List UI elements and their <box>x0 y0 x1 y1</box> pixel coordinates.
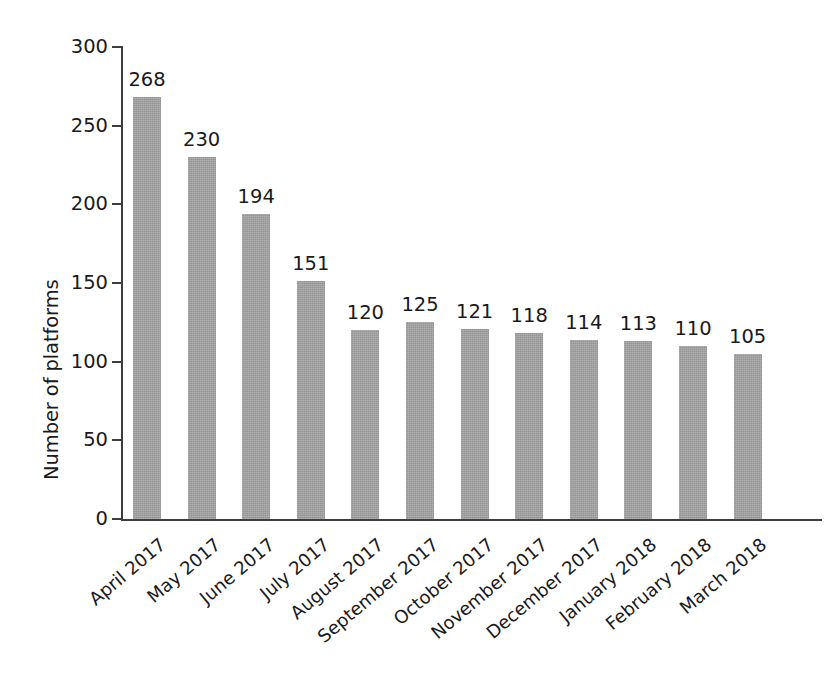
y-tick-mark <box>112 439 121 441</box>
y-tick-label-wrap: 0 <box>40 509 108 529</box>
y-tick-label: 150 <box>48 273 108 293</box>
bar-chart: Number of platforms 050100150200250300 2… <box>0 0 839 682</box>
y-tick-mark <box>112 518 121 520</box>
y-tick-label: 100 <box>48 352 108 372</box>
bar-value-label: 230 <box>162 130 242 150</box>
y-tick-label: 0 <box>48 509 108 529</box>
bar-value-label: 105 <box>708 327 788 347</box>
bar-value-label: 151 <box>271 254 351 274</box>
bar <box>461 329 489 519</box>
y-tick-mark <box>112 46 121 48</box>
y-tick-label-wrap: 100 <box>40 352 108 372</box>
bar-value-label: 194 <box>216 187 296 207</box>
bar <box>406 322 434 519</box>
y-tick-mark <box>112 125 121 127</box>
bar <box>242 214 270 519</box>
y-tick-mark <box>112 282 121 284</box>
y-tick-label: 300 <box>48 37 108 57</box>
bar <box>515 333 543 519</box>
bar <box>297 281 325 519</box>
y-tick-label-wrap: 300 <box>40 37 108 57</box>
bar <box>351 330 379 519</box>
y-tick-mark <box>112 361 121 363</box>
y-axis-line <box>121 46 123 521</box>
y-tick-label: 50 <box>48 430 108 450</box>
bar <box>679 346 707 519</box>
bar <box>188 157 216 519</box>
y-tick-label-wrap: 200 <box>40 194 108 214</box>
bar <box>133 97 161 519</box>
y-tick-label-wrap: 150 <box>40 273 108 293</box>
bar <box>734 354 762 519</box>
y-axis-title: Number of platforms <box>40 0 66 480</box>
y-tick-label-wrap: 250 <box>40 116 108 136</box>
bar-value-label: 268 <box>107 70 187 90</box>
y-tick-label: 250 <box>48 116 108 136</box>
bar <box>624 341 652 519</box>
x-axis-line <box>121 519 822 521</box>
y-tick-mark <box>112 203 121 205</box>
y-tick-label-wrap: 50 <box>40 430 108 450</box>
bar <box>570 340 598 519</box>
y-tick-label: 200 <box>48 194 108 214</box>
